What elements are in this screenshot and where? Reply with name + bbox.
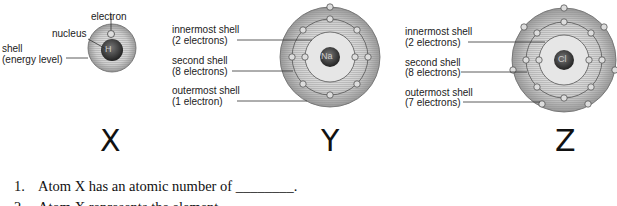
label-electron: electron <box>91 11 127 22</box>
label-z-inner: innermost shell <box>405 26 472 37</box>
atom-z <box>461 5 617 112</box>
atom-letter-y: Y <box>321 123 339 158</box>
question-2-text: Atom X represents the element <box>38 199 218 206</box>
label-z-outer-count: (7 electrons) <box>405 97 461 108</box>
symbol-na: Na <box>321 51 333 62</box>
label-y-outer: outermost shell <box>172 85 240 96</box>
label-nucleus: nucleus <box>52 28 86 39</box>
question-1-number: 1. <box>14 178 25 195</box>
label-y-outer-count: (1 electron) <box>172 96 223 107</box>
symbol-h: H <box>105 44 112 55</box>
label-z-inner-count: (2 electrons) <box>405 37 461 48</box>
atom-letter-z: Z <box>555 123 576 158</box>
label-y-inner-count: (2 electrons) <box>172 35 228 46</box>
label-z-second-count: (8 electrons) <box>405 67 461 78</box>
label-y-second: second shell <box>172 55 228 66</box>
atom-letter-x: X <box>100 123 121 158</box>
atom-x <box>66 14 136 72</box>
atom-diagrams <box>0 0 617 206</box>
question-2-number: 2. <box>14 199 25 206</box>
label-y-inner: innermost shell <box>172 24 239 35</box>
electron <box>108 31 115 38</box>
label-y-second-count: (8 electrons) <box>172 66 228 77</box>
question-1-text: Atom X has an atomic number of ________. <box>38 178 297 195</box>
symbol-cl: Cl <box>558 54 567 65</box>
label-energy-level: (energy level) <box>2 54 63 65</box>
atom-y <box>232 4 380 107</box>
label-shell: shell <box>2 43 23 54</box>
